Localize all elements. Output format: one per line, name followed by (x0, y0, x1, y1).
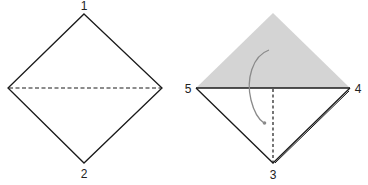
point-label-3: 3 (270, 168, 277, 182)
point-label-1: 1 (81, 0, 88, 13)
step-1-diagram: 1 2 (8, 0, 162, 181)
point-label-2: 2 (81, 167, 88, 181)
shaded-top-triangle (196, 13, 350, 88)
point-label-5: 5 (185, 82, 192, 96)
arrow-head-icon (263, 121, 267, 125)
point-label-4: 4 (355, 82, 362, 96)
step-2-diagram: 5 4 3 (185, 13, 362, 182)
origami-diagram: 1 2 5 4 3 (0, 0, 368, 185)
